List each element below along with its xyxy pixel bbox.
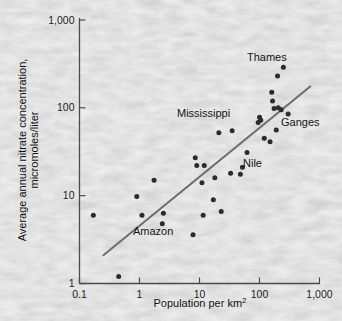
- data-point: [269, 90, 274, 95]
- data-point: [152, 178, 157, 183]
- data-point: [134, 194, 139, 199]
- data-point: [116, 274, 121, 279]
- data-point: [91, 213, 96, 218]
- x-tick-label: 1: [137, 288, 143, 300]
- annotation-label: Ganges: [281, 116, 320, 128]
- data-point: [275, 74, 280, 79]
- x-tick-label: 1,000: [306, 288, 332, 300]
- data-point: [161, 211, 166, 216]
- data-point: [262, 136, 267, 141]
- y-axis-title-line2: micromoles/liter: [28, 111, 40, 188]
- data-point: [268, 139, 273, 144]
- data-points: [91, 65, 291, 279]
- y-tick-label: 100: [57, 101, 75, 113]
- data-point: [211, 197, 216, 202]
- data-point: [279, 107, 284, 112]
- annotation-label: Thames: [247, 51, 287, 63]
- data-point: [230, 128, 235, 133]
- data-point: [212, 175, 217, 180]
- data-point: [202, 163, 207, 168]
- y-axis-title-line1: Average annual nitrate concentration,: [16, 59, 28, 242]
- x-axis-title: Population per km2: [153, 296, 247, 309]
- x-tick-label: 0.1: [72, 288, 87, 300]
- data-point: [216, 130, 221, 135]
- scatter-plot: 1101001,000 0.11101001,000 ThamesMississ…: [0, 0, 342, 321]
- data-point: [228, 171, 233, 176]
- annotation-label: Nile: [243, 157, 262, 169]
- annotation-label: Amazon: [133, 225, 173, 237]
- data-point: [194, 163, 199, 168]
- data-point: [270, 98, 275, 103]
- x-tick-label: 100: [251, 288, 269, 300]
- data-point: [274, 127, 279, 132]
- data-point: [191, 232, 196, 237]
- data-point: [281, 65, 286, 70]
- data-point: [219, 209, 224, 214]
- annotation-label: Mississippi: [177, 107, 230, 119]
- data-point: [238, 172, 243, 177]
- y-tick-label: 10: [63, 189, 75, 201]
- data-point: [199, 180, 204, 185]
- y-tick-label: 1,000: [48, 14, 74, 26]
- axis-titles: Population per km2 Average annual nitrat…: [16, 59, 247, 309]
- chart-figure: 1101001,000 0.11101001,000 ThamesMississ…: [0, 0, 342, 321]
- data-point: [139, 213, 144, 218]
- data-point: [193, 155, 198, 160]
- data-point: [201, 213, 206, 218]
- data-point: [245, 150, 250, 155]
- data-point: [258, 118, 263, 123]
